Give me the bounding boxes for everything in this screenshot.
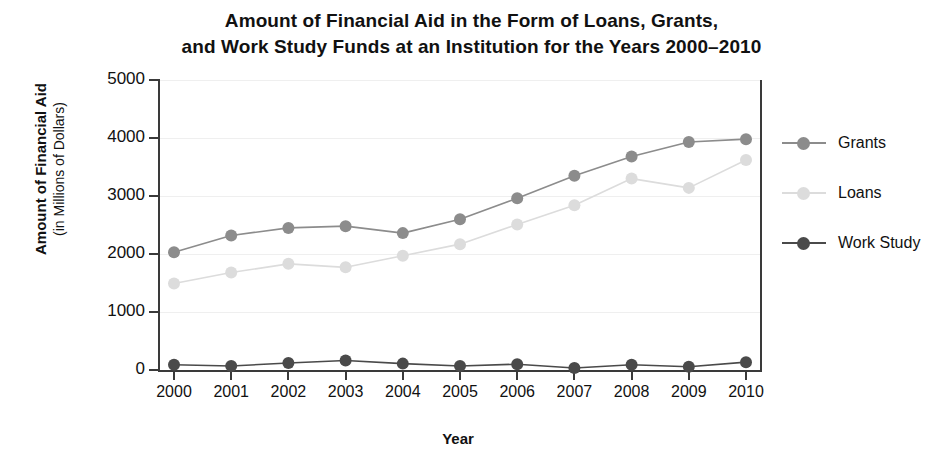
y-axis-title-sub: (in Millions of Dollars) — [50, 29, 69, 309]
legend-item-work-study[interactable]: Work Study — [782, 225, 942, 261]
x-axis-tick — [173, 370, 175, 380]
data-point — [511, 358, 523, 370]
x-axis-tick — [287, 370, 289, 380]
data-point — [225, 360, 237, 372]
series-work-study — [168, 354, 752, 374]
data-point — [454, 213, 466, 225]
y-axis-tick-label: 1000 — [75, 301, 145, 321]
y-axis-tick-label: 4000 — [75, 127, 145, 147]
legend-marker-icon — [797, 237, 810, 250]
data-point — [282, 357, 294, 369]
legend-marker-icon — [797, 137, 810, 150]
chart-title-line-2: and Work Study Funds at an Institution f… — [0, 34, 943, 60]
legend-swatch — [782, 185, 826, 201]
y-axis-tick — [149, 311, 160, 313]
plot-area: 010002000300040005000 200020012002200320… — [158, 80, 762, 372]
data-point — [626, 151, 638, 163]
data-point — [568, 170, 580, 182]
legend-item-grants[interactable]: Grants — [782, 125, 942, 161]
legend-label: Loans — [838, 184, 882, 202]
legend-swatch — [782, 135, 826, 151]
data-point — [568, 199, 580, 211]
data-point — [397, 358, 409, 370]
data-point — [626, 173, 638, 185]
legend-label: Grants — [838, 134, 886, 152]
legend-item-loans[interactable]: Loans — [782, 175, 942, 211]
y-axis-tick — [149, 195, 160, 197]
x-axis-tick — [345, 370, 347, 380]
y-axis-tick — [149, 79, 160, 81]
y-axis-tick-label: 0 — [75, 359, 145, 379]
data-point — [340, 220, 352, 232]
data-point — [225, 267, 237, 279]
x-axis-title: Year — [158, 430, 758, 447]
data-point — [454, 360, 466, 372]
data-point — [683, 136, 695, 148]
y-axis-title-main: Amount of Financial Aid — [31, 29, 50, 309]
data-point — [683, 361, 695, 373]
y-axis-title: Amount of Financial Aid (in Millions of … — [31, 29, 69, 309]
data-point — [397, 250, 409, 262]
legend-marker-icon — [797, 187, 810, 200]
y-axis-tick — [149, 369, 160, 371]
data-point — [626, 359, 638, 371]
y-axis-tick — [149, 137, 160, 139]
data-point — [168, 246, 180, 258]
data-point — [511, 218, 523, 230]
x-axis-tick — [516, 370, 518, 380]
chart-title: Amount of Financial Aid in the Form of L… — [0, 8, 943, 60]
data-point — [740, 356, 752, 368]
data-point — [568, 362, 580, 374]
data-point — [397, 227, 409, 239]
x-axis-tick — [745, 370, 747, 380]
x-axis-tick — [631, 370, 633, 380]
legend-swatch — [782, 235, 826, 251]
data-point — [683, 182, 695, 194]
data-point — [340, 354, 352, 366]
x-axis-tick — [402, 370, 404, 380]
y-axis-tick — [149, 253, 160, 255]
legend-label: Work Study — [838, 234, 920, 252]
data-point — [340, 261, 352, 273]
y-axis-tick-label: 3000 — [75, 185, 145, 205]
chart-figure: Amount of Financial Aid in the Form of L… — [0, 0, 943, 466]
data-point — [282, 258, 294, 270]
data-point — [168, 278, 180, 290]
data-point — [225, 229, 237, 241]
chart-legend: GrantsLoansWork Study — [782, 125, 942, 275]
series-line — [174, 139, 746, 252]
data-point — [168, 359, 180, 371]
data-point — [740, 133, 752, 145]
data-point — [511, 192, 523, 204]
y-axis-tick-label: 2000 — [75, 243, 145, 263]
data-point — [454, 238, 466, 250]
x-axis-tick-label: 2010 — [711, 383, 781, 401]
y-axis-tick-label: 5000 — [75, 69, 145, 89]
series-layer — [160, 80, 760, 370]
chart-title-line-1: Amount of Financial Aid in the Form of L… — [0, 8, 943, 34]
data-point — [282, 222, 294, 234]
data-point — [740, 154, 752, 166]
